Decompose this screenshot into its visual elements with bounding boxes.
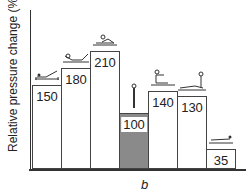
bar-value-label: 150 (34, 89, 60, 104)
bar-7: 35 (206, 149, 236, 169)
bar-value-label: 130 (179, 100, 205, 115)
x-axis-baseline (29, 169, 246, 171)
y-axis-label: Relative pressure change (%) (6, 22, 20, 152)
posture-icon (177, 70, 207, 96)
bar-value-label: 210 (92, 55, 118, 70)
bar-4: 100 (119, 113, 149, 169)
posture-icon (92, 33, 118, 51)
posture-icon (34, 67, 60, 85)
bar-2: 180 (61, 68, 91, 169)
subplot-label: b (141, 177, 148, 192)
bar-value-label: 180 (63, 72, 89, 87)
bar-6: 130 (177, 96, 207, 169)
bar-3: 210 (90, 51, 120, 169)
posture-icon (130, 83, 138, 113)
bar-value-label: 35 (212, 153, 230, 168)
bar-value-label: 100 (121, 117, 147, 132)
bar-5: 140 (148, 91, 178, 169)
posture-icon (62, 50, 90, 68)
bar-value-label: 140 (150, 95, 176, 110)
posture-icon (150, 67, 176, 91)
bar-1: 150 (32, 85, 62, 169)
posture-icon (208, 131, 234, 149)
y-axis-line (30, 10, 31, 170)
